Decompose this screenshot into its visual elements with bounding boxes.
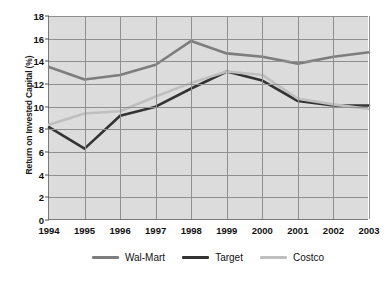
x-axis-tick-label: 1998 bbox=[181, 225, 202, 236]
y-axis-tick-label: 8 bbox=[39, 124, 44, 135]
x-axis-tick-label: 1996 bbox=[110, 225, 131, 236]
gridline-vertical bbox=[85, 16, 86, 219]
legend-label: Wal-Mart bbox=[125, 252, 165, 263]
y-axis-tick-label: 4 bbox=[39, 169, 44, 180]
y-axis-tick-mark bbox=[45, 106, 49, 107]
x-axis-tick-label: 2002 bbox=[323, 225, 344, 236]
gridline-vertical bbox=[333, 16, 334, 219]
x-axis-tick-label: 1997 bbox=[145, 225, 166, 236]
chart-figure: Return on Invested Capital (%) 024681012… bbox=[0, 0, 392, 288]
y-axis-tick-mark bbox=[45, 197, 49, 198]
gridline-horizontal bbox=[49, 84, 368, 85]
y-axis-tick-label: 12 bbox=[33, 79, 44, 90]
legend-item-costco[interactable]: Costco bbox=[260, 252, 324, 263]
plot-area: 0246810121416181994199519961997199819992… bbox=[48, 16, 368, 220]
y-axis-tick-label: 10 bbox=[33, 101, 44, 112]
gridline-horizontal bbox=[49, 129, 368, 130]
y-axis-tick-mark bbox=[45, 38, 49, 39]
y-axis-tick-mark bbox=[45, 174, 49, 175]
legend-label: Target bbox=[215, 252, 243, 263]
y-axis-tick-label: 18 bbox=[33, 11, 44, 22]
series-lines bbox=[49, 16, 369, 220]
y-axis-tick-mark bbox=[45, 152, 49, 153]
gridline-horizontal bbox=[49, 16, 368, 17]
y-axis-tick-label: 0 bbox=[39, 215, 44, 226]
y-axis-tick-label: 16 bbox=[33, 33, 44, 44]
gridline-horizontal bbox=[49, 175, 368, 176]
gridline-horizontal bbox=[49, 39, 368, 40]
legend-item-wal-mart[interactable]: Wal-Mart bbox=[92, 252, 165, 263]
x-axis-tick-label: 1995 bbox=[74, 225, 95, 236]
chart-legend: Wal-MartTargetCostco bbox=[48, 252, 368, 263]
gridline-horizontal bbox=[49, 107, 368, 108]
gridline-horizontal bbox=[49, 61, 368, 62]
legend-swatch-icon bbox=[260, 256, 287, 259]
gridline-vertical bbox=[298, 16, 299, 219]
y-axis-tick-mark bbox=[45, 220, 49, 221]
gridline-vertical bbox=[191, 16, 192, 219]
y-axis-tick-mark bbox=[45, 129, 49, 130]
x-axis-tick-label: 2003 bbox=[358, 225, 379, 236]
gridline-horizontal bbox=[49, 197, 368, 198]
legend-swatch-icon bbox=[92, 256, 119, 259]
plot-inner: 0246810121416181994199519961997199819992… bbox=[49, 16, 368, 219]
y-axis-tick-mark bbox=[45, 61, 49, 62]
gridline-vertical bbox=[262, 16, 263, 219]
y-axis-title: Return on Invested Capital (%) bbox=[24, 20, 34, 210]
legend-label: Costco bbox=[293, 252, 324, 263]
x-axis-tick-label: 1994 bbox=[38, 225, 59, 236]
y-axis-tick-label: 6 bbox=[39, 147, 44, 158]
y-axis-tick-label: 2 bbox=[39, 192, 44, 203]
gridline-horizontal bbox=[49, 152, 368, 153]
gridline-vertical bbox=[120, 16, 121, 219]
legend-item-target[interactable]: Target bbox=[182, 252, 243, 263]
y-axis-tick-mark bbox=[45, 16, 49, 17]
legend-swatch-icon bbox=[182, 256, 209, 259]
gridline-vertical bbox=[227, 16, 228, 219]
y-axis-tick-label: 14 bbox=[33, 56, 44, 67]
x-axis-tick-label: 2000 bbox=[252, 225, 273, 236]
gridline-vertical bbox=[156, 16, 157, 219]
x-axis-tick-label: 1999 bbox=[216, 225, 237, 236]
x-axis-tick-label: 2001 bbox=[287, 225, 308, 236]
series-line-wal-mart bbox=[49, 41, 369, 80]
y-axis-tick-mark bbox=[45, 84, 49, 85]
gridline-vertical bbox=[369, 16, 370, 219]
